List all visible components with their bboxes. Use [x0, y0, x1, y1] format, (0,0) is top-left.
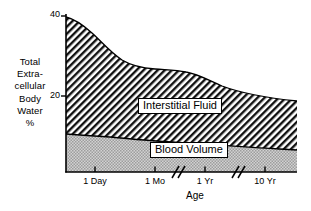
x-tick-label-1-mo: 1 Mo	[130, 176, 180, 186]
legend-label-interstitial-fluid: Interstitial Fluid	[138, 98, 222, 114]
interstitial-fluid-area	[66, 17, 297, 150]
x-tick-label-10-yr: 10 Yr	[240, 176, 290, 186]
chart-figure: Total Extra- cellular Body Water % 40 20	[0, 0, 311, 211]
x-tick-label-1-yr: 1 Yr	[180, 176, 230, 186]
x-axis-title: Age	[170, 190, 220, 201]
x-tick-label-1-day: 1 Day	[70, 176, 120, 186]
legend-label-blood-volume: Blood Volume	[150, 142, 228, 158]
